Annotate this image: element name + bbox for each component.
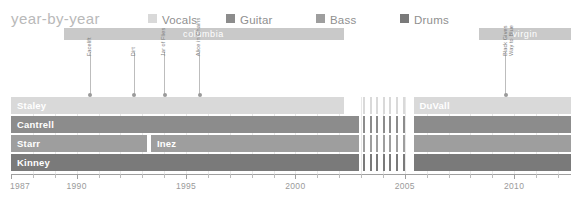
legend-item-vocals[interactable]: Vocals	[148, 10, 197, 24]
legend-swatch-icon	[316, 14, 325, 23]
record-label-text: virgin	[479, 28, 571, 40]
legend-item-label: Bass	[330, 14, 356, 26]
member-bar-cantrell[interactable]: Cantrell	[11, 116, 359, 133]
row-guitar: Cantrell	[11, 116, 571, 133]
axis-tick-label: 2005	[395, 181, 415, 191]
member-name: Inez	[157, 135, 176, 152]
member-name: Cantrell	[17, 116, 54, 133]
legend-item-drums[interactable]: Drums	[400, 10, 449, 24]
hiatus-stripes	[363, 97, 409, 114]
axis-tick-minor	[361, 174, 362, 178]
hiatus-stripes	[363, 116, 409, 133]
axis-tick-minor	[492, 174, 493, 178]
axis-tick-minor	[383, 174, 384, 178]
axis-tick-major	[11, 174, 12, 179]
member-bar-bass[interactable]	[414, 135, 572, 152]
axis-line	[11, 174, 571, 175]
axis-tick-major	[514, 174, 515, 179]
hiatus-stripe	[376, 97, 378, 114]
axis-tick-major	[186, 174, 187, 179]
record-label-bar-virgin: virgin	[479, 28, 571, 40]
album-label: Way to Blue	[508, 25, 514, 56]
axis-tick-minor	[120, 174, 121, 178]
member-bar-guitar[interactable]	[414, 116, 572, 133]
axis-tick-major	[295, 174, 296, 179]
album-label: Alice in Chains	[195, 18, 201, 57]
record-label-bar-columbia: columbia	[64, 28, 344, 40]
member-name: Starr	[17, 135, 40, 152]
album-marker-line	[90, 52, 91, 95]
legend-swatch-icon	[226, 14, 235, 23]
album-label: Dirt	[129, 47, 135, 56]
hiatus-stripe	[376, 135, 378, 152]
album-label: Jar of Flies	[160, 28, 166, 57]
hiatus-stripe	[370, 154, 372, 171]
page-title: year-by-year	[11, 10, 100, 27]
axis-tick-label: 1987	[10, 181, 30, 191]
album-marker-line	[134, 52, 135, 95]
axis-tick-major	[77, 174, 78, 179]
legend-item-bass[interactable]: Bass	[316, 10, 356, 24]
member-bar-drums[interactable]	[414, 154, 572, 171]
axis-tick-minor	[252, 174, 253, 178]
album-marker-line	[199, 52, 200, 95]
row-drums: Kinney	[11, 154, 571, 171]
axis-tick-minor	[164, 174, 165, 178]
hiatus-stripe	[389, 116, 391, 133]
hiatus-stripe	[363, 135, 365, 152]
hiatus-stripe	[376, 116, 378, 133]
axis-tick-minor	[99, 174, 100, 178]
record-label-text: columbia	[64, 28, 344, 40]
axis-tick-minor	[230, 174, 231, 178]
row-bass: StarrInez	[11, 135, 571, 152]
legend-swatch-icon	[148, 14, 157, 23]
hiatus-stripe	[383, 116, 385, 133]
axis-tick-major	[405, 174, 406, 179]
axis-tick-minor	[449, 174, 450, 178]
axis-tick-minor	[427, 174, 428, 178]
hiatus-stripe	[383, 154, 385, 171]
hiatus-stripe	[396, 135, 398, 152]
hiatus-stripes	[363, 135, 409, 152]
hiatus-stripe	[403, 116, 405, 133]
axis-tick-minor	[55, 174, 56, 178]
hiatus-stripe	[396, 97, 398, 114]
member-bar-staley[interactable]: Staley	[11, 97, 344, 114]
axis-tick-label: 2000	[285, 181, 305, 191]
axis-tick-minor	[208, 174, 209, 178]
member-bar-duvall[interactable]: DuVall	[414, 97, 572, 114]
axis-tick-minor	[470, 174, 471, 178]
axis-tick-minor	[339, 174, 340, 178]
hiatus-stripe	[403, 97, 405, 114]
hiatus-stripe	[370, 116, 372, 133]
row-vocals: StaleyDuVall	[11, 97, 571, 114]
legend-item-guitar[interactable]: Guitar	[226, 10, 273, 24]
album-marker-line	[505, 52, 506, 95]
axis-tick-label: 1995	[176, 181, 196, 191]
hiatus-stripe	[363, 97, 365, 114]
hiatus-stripe	[403, 135, 405, 152]
axis-tick-minor	[558, 174, 559, 178]
hiatus-stripe	[370, 97, 372, 114]
member-bar-kinney[interactable]: Kinney	[11, 154, 359, 171]
album-label: Black Gives	[502, 25, 508, 56]
member-rows: StaleyDuVallCantrellStarrInezKinney	[11, 97, 571, 172]
legend-swatch-icon	[400, 14, 409, 23]
hiatus-stripe	[389, 154, 391, 171]
axis-tick-minor	[142, 174, 143, 178]
album-label: Facelift	[86, 37, 92, 56]
axis-tick-minor	[536, 174, 537, 178]
hiatus-stripe	[403, 154, 405, 171]
legend-item-label: Drums	[414, 14, 449, 26]
hiatus-stripe	[376, 154, 378, 171]
member-bar-starr[interactable]: Starr	[11, 135, 147, 152]
hiatus-stripes	[363, 154, 409, 171]
member-bar-inez[interactable]: Inez	[151, 135, 359, 152]
album-marker-line	[164, 52, 165, 95]
chart-root: year-by-year VocalsGuitarBassDrums colum…	[0, 0, 582, 199]
axis-tick-label: 1990	[67, 181, 87, 191]
hiatus-stripe	[389, 97, 391, 114]
hiatus-stripe	[363, 154, 365, 171]
hiatus-stripe	[396, 154, 398, 171]
hiatus-stripe	[363, 116, 365, 133]
